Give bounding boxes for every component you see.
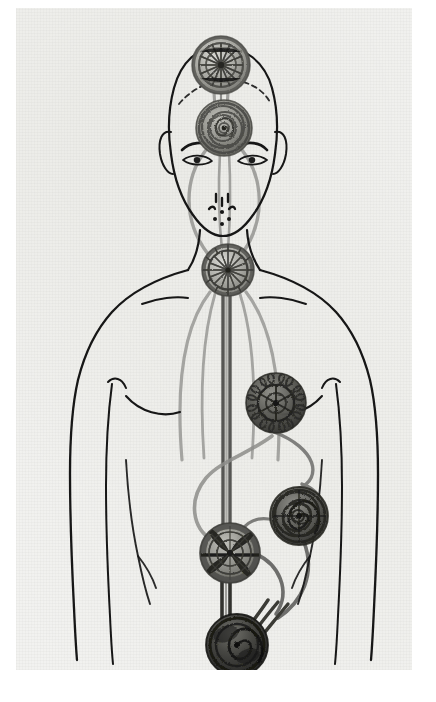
left-pupil xyxy=(194,157,201,163)
left-pectoral xyxy=(126,396,180,414)
left-clavicle xyxy=(142,297,188,304)
right-inner-arm xyxy=(335,384,342,664)
left-waist xyxy=(126,460,150,604)
chakra-navel[interactable] xyxy=(200,523,260,583)
sushumna-central-channel xyxy=(223,294,230,528)
right-pupil xyxy=(249,157,256,163)
print-plate xyxy=(16,8,412,670)
screenshot-root: Chakras and Nadis of the Subtle Body mon… xyxy=(0,0,436,702)
left-shoulder-arm xyxy=(70,270,188,660)
chakra-solar-plexus[interactable] xyxy=(270,487,328,545)
navel-root-stalk xyxy=(222,580,230,620)
right-clavicle xyxy=(260,297,306,304)
chakra-third-eye[interactable] xyxy=(196,100,252,156)
chakra-throat[interactable] xyxy=(202,244,254,296)
left-inner-arm xyxy=(106,384,113,664)
chakra-figure-illustration xyxy=(16,8,412,670)
chakra-root[interactable] xyxy=(206,614,268,670)
chakra-crown[interactable] xyxy=(192,36,250,94)
